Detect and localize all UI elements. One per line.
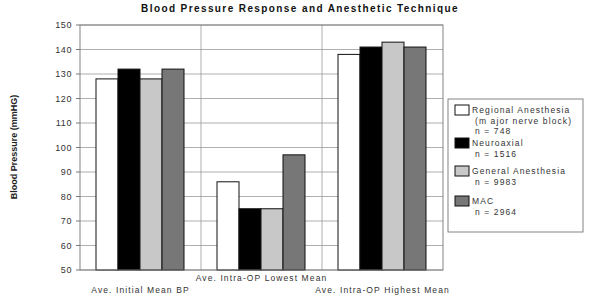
bar xyxy=(140,79,162,270)
y-tick-label: 90 xyxy=(61,167,72,177)
y-tick-label: 120 xyxy=(55,94,72,104)
bar xyxy=(283,155,305,270)
bar xyxy=(118,69,140,270)
legend-label: n = 1516 xyxy=(475,149,517,159)
bar xyxy=(217,182,239,270)
legend-swatch xyxy=(455,105,469,115)
y-axis-label: Blood Pressure (mmHG) xyxy=(9,95,19,200)
y-axis-label-group: Blood Pressure (mmHG) xyxy=(9,95,19,200)
bar xyxy=(360,47,382,270)
legend-label: MAC xyxy=(472,196,494,206)
legend-label: Regional Anesthesia xyxy=(472,105,570,115)
bar xyxy=(338,54,360,270)
legend-swatch xyxy=(455,138,469,148)
legend-swatch xyxy=(455,166,469,176)
legend-label: n = 748 xyxy=(475,126,511,136)
legend-swatch xyxy=(455,196,469,206)
category-label: Ave. Intra-OP Highest Mean xyxy=(315,285,450,295)
bar xyxy=(382,42,404,270)
legend-label: n = 2964 xyxy=(475,207,517,217)
bar xyxy=(404,47,426,270)
legend: Regional Anesthesia(m ajor nerve block)n… xyxy=(448,99,583,232)
legend-label: n = 9983 xyxy=(475,177,517,187)
y-tick-label: 70 xyxy=(61,216,72,226)
y-tick-label: 110 xyxy=(56,118,72,128)
legend-label: General Anesthesia xyxy=(472,166,566,176)
y-tick-label: 60 xyxy=(61,241,72,251)
y-tick-label: 50 xyxy=(61,265,72,275)
category-label: Ave. Initial Mean BP xyxy=(91,285,189,295)
category-labels: Ave. Initial Mean BPAve. Intra-OP Lowest… xyxy=(91,273,449,295)
y-axis-ticks: 5060708090100110120130140150 xyxy=(55,20,80,275)
y-tick-label: 130 xyxy=(55,69,72,79)
y-tick-label: 140 xyxy=(55,45,72,55)
bar xyxy=(239,209,261,270)
bar-chart: Blood Pressure Response and Anesthetic T… xyxy=(0,0,592,303)
bar xyxy=(96,79,118,270)
bar xyxy=(261,209,283,270)
y-tick-label: 80 xyxy=(61,192,72,202)
y-tick-label: 100 xyxy=(55,143,72,153)
y-tick-label: 150 xyxy=(55,20,72,30)
bar xyxy=(162,69,184,270)
legend-label: Neuroaxial xyxy=(472,138,524,148)
bars xyxy=(96,42,426,270)
category-label: Ave. Intra-OP Lowest Mean xyxy=(196,273,328,283)
chart-title: Blood Pressure Response and Anesthetic T… xyxy=(141,3,459,14)
legend-label: (m ajor nerve block) xyxy=(475,116,572,126)
